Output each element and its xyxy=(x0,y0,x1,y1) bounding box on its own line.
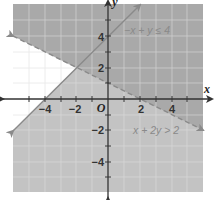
x-tick-label: −2 xyxy=(69,103,82,115)
x-tick-label: 2 xyxy=(138,103,144,115)
inequality-label-dashed: x + 2y > 2 xyxy=(132,124,179,136)
inequality-graph: −4 −2 2 4 4 2 −2 −4 O x y −x + y ≤ 4 x +… xyxy=(0,0,215,200)
y-tick-label: 2 xyxy=(98,62,104,74)
y-axis-label: y xyxy=(110,0,118,9)
x-axis-label: x xyxy=(203,82,210,96)
inequality-label-solid: −x + y ≤ 4 xyxy=(124,24,170,36)
origin-label: O xyxy=(97,101,106,115)
y-tick-label: −4 xyxy=(91,156,104,168)
y-tick-label: 4 xyxy=(98,31,105,43)
x-tick-label: −4 xyxy=(39,103,52,115)
y-tick-label: −2 xyxy=(91,124,104,136)
x-tick-label: 4 xyxy=(169,103,176,115)
